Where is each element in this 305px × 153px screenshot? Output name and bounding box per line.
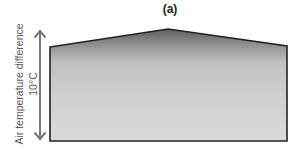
y-axis-value: 10°C (27, 19, 39, 149)
panel-label: (a) (150, 2, 190, 16)
diagram (0, 0, 305, 153)
room-shape (50, 29, 287, 141)
y-axis-label: Air temperature difference (13, 19, 25, 149)
